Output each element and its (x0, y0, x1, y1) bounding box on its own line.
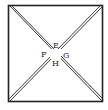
label-g: G (63, 51, 69, 60)
diagram-canvas: E F G H (0, 0, 108, 110)
label-f: F (41, 50, 47, 59)
center-gap (50, 49, 61, 59)
label-e: E (53, 41, 59, 50)
label-h: H (52, 59, 59, 68)
